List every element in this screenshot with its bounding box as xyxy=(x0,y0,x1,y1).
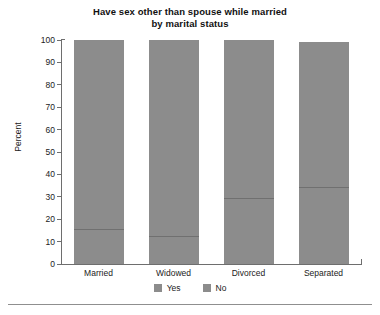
y-axis-tick-label: 80 xyxy=(46,80,55,90)
y-axis-ticks: 0102030405060708090100 xyxy=(0,40,61,264)
bar-segment-yes[interactable] xyxy=(74,229,124,264)
y-axis-tick-label: 0 xyxy=(50,259,55,269)
legend-swatch-icon xyxy=(154,284,162,292)
x-axis-label-divorced: Divorced xyxy=(214,267,284,279)
x-axis-label-married: Married xyxy=(64,267,134,279)
chart-figure: Have sex other than spouse while married… xyxy=(0,0,380,315)
legend-label: No xyxy=(216,283,227,293)
y-axis-tick-label: 10 xyxy=(46,237,55,247)
y-axis-tick-label: 60 xyxy=(46,125,55,135)
legend-label: Yes xyxy=(167,283,181,293)
chart-title: Have sex other than spouse while married… xyxy=(0,6,380,30)
legend-swatch-icon xyxy=(203,284,211,292)
bar-segment-yes[interactable] xyxy=(299,187,349,264)
bar-group[interactable] xyxy=(224,40,274,264)
y-axis-tick-label: 30 xyxy=(46,192,55,202)
chart-title-line-2: by marital status xyxy=(0,18,380,30)
x-axis-line xyxy=(61,264,362,265)
y-axis-tick-label: 100 xyxy=(41,35,55,45)
bar-group[interactable] xyxy=(74,40,124,264)
x-axis-label-widowed: Widowed xyxy=(139,267,209,279)
x-axis-labels: MarriedWidowedDivorcedSeparated xyxy=(61,267,362,281)
legend-item-no[interactable]: No xyxy=(203,283,227,293)
chart-legend: YesNo xyxy=(0,283,380,293)
x-axis-right-cap xyxy=(361,259,362,265)
plot-area xyxy=(61,40,361,264)
bar-segment-yes[interactable] xyxy=(224,198,274,264)
legend-item-yes[interactable]: Yes xyxy=(154,283,181,293)
x-axis-label-separated: Separated xyxy=(289,267,359,279)
chart-title-line-1: Have sex other than spouse while married xyxy=(0,6,380,18)
y-axis-tick-label: 20 xyxy=(46,214,55,224)
y-axis-tick-label: 50 xyxy=(46,147,55,157)
bar-segment-no[interactable] xyxy=(149,40,199,264)
y-axis-tick-label: 90 xyxy=(46,57,55,67)
bar-group[interactable] xyxy=(149,40,199,264)
bottom-divider xyxy=(8,304,372,305)
y-axis-tick-label: 40 xyxy=(46,169,55,179)
bar-group[interactable] xyxy=(299,40,349,264)
y-axis-tick-label: 70 xyxy=(46,102,55,112)
y-axis-title: Percent xyxy=(13,107,23,167)
bar-segment-yes[interactable] xyxy=(149,236,199,264)
